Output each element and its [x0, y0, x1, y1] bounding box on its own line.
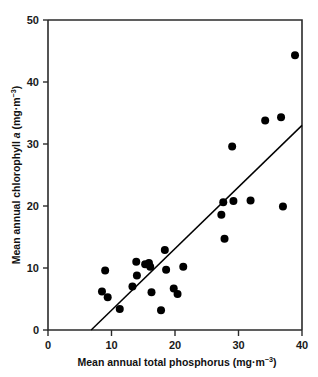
x-tick-label-40: 40 [296, 339, 308, 351]
frame-top-right [48, 20, 302, 330]
plot-frame [48, 20, 302, 330]
data-point [116, 305, 124, 313]
y-tick-label-40: 40 [27, 76, 39, 88]
chart-figure: 0 10 20 30 40 50 0 10 20 30 40 Mean annu… [0, 0, 318, 377]
data-point [161, 246, 169, 254]
data-point [146, 263, 154, 271]
x-axis-title-sup: −3 [265, 355, 273, 364]
y-tick-label-10: 10 [27, 262, 39, 274]
axis-lines [48, 20, 302, 330]
data-point [174, 290, 182, 298]
data-point [217, 211, 225, 219]
x-tick-marks [48, 330, 302, 336]
x-axis-title-tail: ) [273, 356, 277, 368]
data-point [247, 196, 255, 204]
y-axis-title-tail: ) [10, 86, 22, 90]
data-point [98, 288, 106, 296]
y-tick-label-20: 20 [27, 200, 39, 212]
data-point [279, 203, 287, 211]
scatter-plot: 0 10 20 30 40 50 0 10 20 30 40 Mean annu… [0, 0, 318, 377]
y-axis-title: Mean annual chlorophyll a (mg·m−3) [9, 86, 22, 265]
y-axis-title-pre: Mean annual chlorophyll [10, 138, 22, 264]
x-tick-label-30: 30 [232, 339, 244, 351]
y-tick-label-50: 50 [27, 14, 39, 26]
x-axis-title: Mean annual total phosphorus (mg·m−3) [78, 355, 277, 368]
data-point [104, 293, 112, 301]
x-axis-title-main: Mean annual total phosphorus (mg·m [78, 356, 265, 368]
data-point [261, 116, 269, 124]
data-point [133, 271, 141, 279]
data-point [148, 288, 156, 296]
data-point [219, 198, 227, 206]
data-point [179, 263, 187, 271]
y-axis-title-sup: −3 [9, 89, 18, 97]
y-tick-label-30: 30 [27, 138, 39, 150]
data-point [221, 235, 229, 243]
x-tick-label-0: 0 [45, 339, 51, 351]
y-axis-title-mid: (mg·m [10, 97, 22, 132]
x-tick-label-20: 20 [169, 339, 181, 351]
regression-line [91, 125, 302, 330]
data-point [132, 258, 140, 266]
y-tick-labels: 0 10 20 30 40 50 [27, 14, 39, 336]
data-point [101, 266, 109, 274]
data-point [291, 51, 299, 59]
y-tick-label-0: 0 [33, 324, 39, 336]
data-points-group [98, 51, 299, 314]
data-point [162, 266, 170, 274]
data-point [128, 283, 136, 291]
data-point [277, 113, 285, 121]
x-tick-label-10: 10 [105, 339, 117, 351]
data-point [228, 142, 236, 150]
x-tick-labels: 0 10 20 30 40 [45, 339, 308, 351]
data-point [229, 197, 237, 205]
data-point [157, 306, 165, 314]
